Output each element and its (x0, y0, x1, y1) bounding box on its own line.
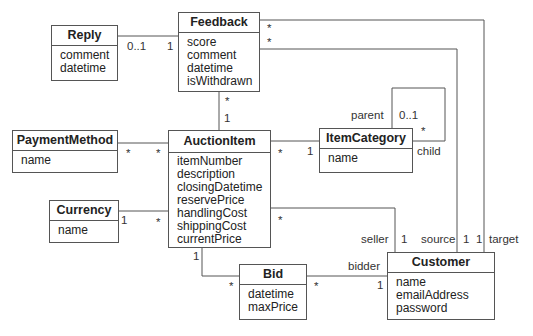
multiplicity-label: 1 (463, 233, 469, 245)
multiplicity-label: * (126, 147, 130, 159)
class-attributes: name (320, 149, 412, 169)
attribute: currentPrice (177, 233, 262, 246)
class-name: Bid (240, 265, 306, 285)
multiplicity-label: * (225, 95, 229, 107)
multiplicity-label: * (229, 280, 233, 292)
class-payment-method: PaymentMethod name (12, 130, 118, 173)
class-attributes: name emailAddress password (388, 273, 494, 319)
multiplicity-label: * (267, 36, 271, 48)
multiplicity-label: 1 (193, 250, 199, 262)
multiplicity-label: 0..1 (127, 40, 146, 52)
class-attributes: score comment datetime isWithdrawn (179, 33, 259, 92)
class-currency: Currency name (49, 200, 119, 243)
class-attributes: comment datetime (52, 46, 117, 79)
role-label: target (489, 233, 518, 245)
multiplicity-label: * (278, 214, 282, 226)
class-name: Currency (50, 201, 118, 221)
multiplicity-label: 1 (224, 112, 230, 124)
attribute: name (58, 224, 110, 237)
class-bid: Bid datetime maxPrice (239, 264, 307, 320)
multiplicity-label: 1 (167, 40, 173, 52)
class-name: PaymentMethod (13, 131, 117, 151)
role-label: bidder (348, 260, 380, 272)
class-name: Reply (52, 26, 117, 46)
multiplicity-label: 0..1 (399, 109, 418, 121)
attribute: name (328, 152, 404, 165)
class-name: AuctionItem (169, 131, 270, 153)
class-item-category: ItemCategory name (319, 128, 413, 173)
class-name: ItemCategory (320, 129, 412, 149)
multiplicity-label: 1 (377, 279, 383, 291)
class-name: Customer (388, 253, 494, 273)
multiplicity-label: * (421, 125, 425, 137)
role-label: parent (351, 109, 384, 121)
multiplicity-label: * (156, 147, 160, 159)
attribute: name (21, 154, 109, 167)
multiplicity-label: * (314, 280, 318, 292)
class-reply: Reply comment datetime (51, 25, 118, 81)
multiplicity-label: 1 (401, 233, 407, 245)
multiplicity-label: 1 (307, 145, 313, 157)
class-name: Feedback (179, 13, 259, 33)
role-label: child (417, 145, 441, 157)
multiplicity-label: * (156, 216, 160, 228)
multiplicity-label: * (267, 22, 271, 34)
multiplicity-label: 1 (476, 233, 482, 245)
role-label: seller (361, 233, 388, 245)
class-feedback: Feedback score comment datetime isWithdr… (178, 12, 260, 92)
class-attributes: itemNumber description closingDatetime r… (169, 153, 270, 250)
class-customer: Customer name emailAddress password (387, 252, 495, 320)
class-auction-item: AuctionItem itemNumber description closi… (168, 130, 271, 248)
class-attributes: datetime maxPrice (240, 285, 306, 318)
attribute: password (396, 302, 486, 315)
class-attributes: name (13, 151, 117, 171)
multiplicity-label: * (278, 147, 282, 159)
attribute: isWithdrawn (187, 75, 251, 88)
attribute: maxPrice (248, 301, 298, 314)
role-label: source (421, 233, 456, 245)
attribute: datetime (60, 62, 109, 75)
multiplicity-label: 1 (121, 214, 127, 226)
class-attributes: name (50, 221, 118, 241)
